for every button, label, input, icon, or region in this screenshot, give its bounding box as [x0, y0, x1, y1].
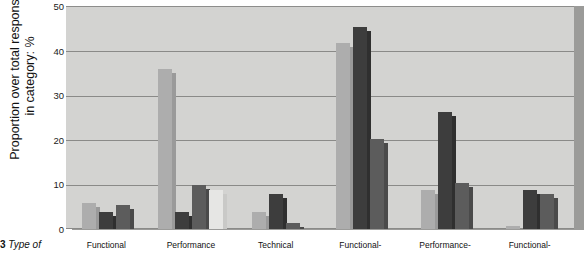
- x-axis-tick-label: Functional-: [509, 240, 551, 250]
- bar: [336, 43, 350, 229]
- bar: [438, 112, 452, 229]
- y-axis-label: Proportion over total response in catego…: [8, 0, 38, 160]
- plot-right-shadow-plate: [574, 6, 584, 230]
- y-axis-tick-20: 20: [42, 134, 64, 145]
- bar: [523, 190, 537, 229]
- bar: [540, 194, 554, 229]
- bar-group: [405, 7, 490, 229]
- bar: [175, 212, 189, 229]
- x-axis-tick-label: Functional-: [339, 240, 381, 250]
- bar: [99, 212, 113, 229]
- bar-group: [320, 7, 405, 229]
- y-axis-tick-0: 0: [42, 224, 64, 235]
- y-axis-label-container: Proportion over total response in catego…: [1, 0, 45, 171]
- bar: [192, 185, 206, 229]
- bar-group: [489, 7, 574, 229]
- y-axis-tick-50: 50: [42, 1, 64, 12]
- x-axis-tick-label: Technical: [258, 240, 293, 250]
- bar: [269, 194, 283, 229]
- y-axis-tick-30: 30: [42, 90, 64, 101]
- bar-series-container: [66, 7, 574, 229]
- bar-group: [151, 7, 236, 229]
- figure-bar-chart: Proportion over total response in catego…: [0, 0, 584, 258]
- y-axis-tick-10: 10: [42, 179, 64, 190]
- bar: [209, 190, 223, 229]
- figure-caption: 3 Type of: [0, 239, 41, 250]
- bar: [252, 212, 266, 229]
- bar: [370, 139, 384, 229]
- figure-caption-number: 3: [0, 239, 6, 250]
- bar-group: [235, 7, 320, 229]
- bar: [82, 203, 96, 229]
- bar: [116, 205, 130, 229]
- bar: [506, 226, 520, 229]
- bar: [353, 27, 367, 229]
- plot-area-outer: [66, 6, 584, 230]
- bar: [158, 69, 172, 229]
- x-axis-tick-label: Performance-: [419, 240, 471, 250]
- figure-caption-text: Type of: [8, 239, 41, 250]
- x-axis-tick-label: Performance: [167, 240, 216, 250]
- plot-area: [66, 6, 574, 229]
- bar: [455, 183, 469, 229]
- y-axis-tick-40: 40: [42, 45, 64, 56]
- bar-group: [66, 7, 151, 229]
- bar: [286, 223, 300, 229]
- x-axis-tick-label: Functional: [87, 240, 126, 250]
- bar: [421, 190, 435, 229]
